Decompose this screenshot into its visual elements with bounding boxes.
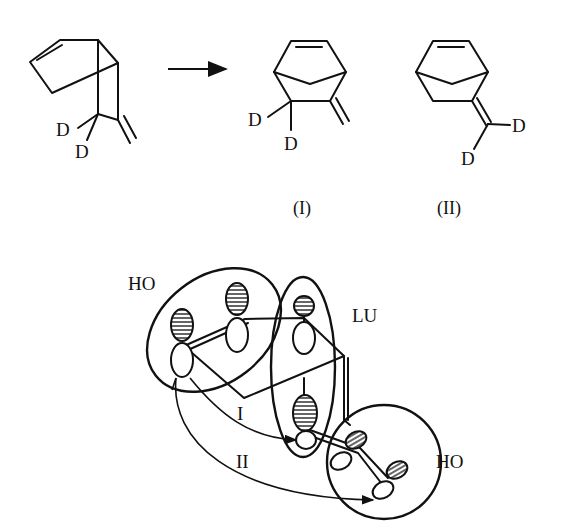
pathway-label-II: II (236, 451, 249, 472)
open-lobe (327, 449, 354, 474)
deuterium-label: D (284, 133, 298, 154)
scheme-canvas: D D D D (I) D D (II) HO LU HO (0, 0, 561, 529)
deuterium-label: D (56, 119, 70, 140)
product-II-caption: (II) (437, 198, 461, 219)
pathway-label-I: I (237, 403, 243, 424)
product-I-caption: (I) (293, 198, 311, 219)
fragment-label-LU: LU (352, 305, 378, 326)
hatched-lobe (171, 309, 193, 341)
open-lobe (226, 318, 248, 352)
open-lobe (171, 343, 193, 377)
fragment-label-HO: HO (128, 273, 155, 294)
hatched-lobe (226, 283, 248, 315)
product-I-structure (268, 41, 349, 130)
hatched-lobe (293, 395, 317, 431)
hatched-lobe (294, 296, 314, 316)
reactant-structure (30, 40, 136, 143)
deuterium-label: D (461, 148, 475, 169)
open-lobe (296, 431, 316, 449)
deuterium-label: D (75, 141, 89, 162)
open-lobe (293, 322, 315, 354)
open-lobe (369, 478, 396, 503)
product-II-structure (416, 41, 510, 149)
deuterium-label: D (248, 109, 262, 130)
ho-orbital-envelope (123, 243, 305, 418)
deuterium-label: D (512, 115, 526, 136)
